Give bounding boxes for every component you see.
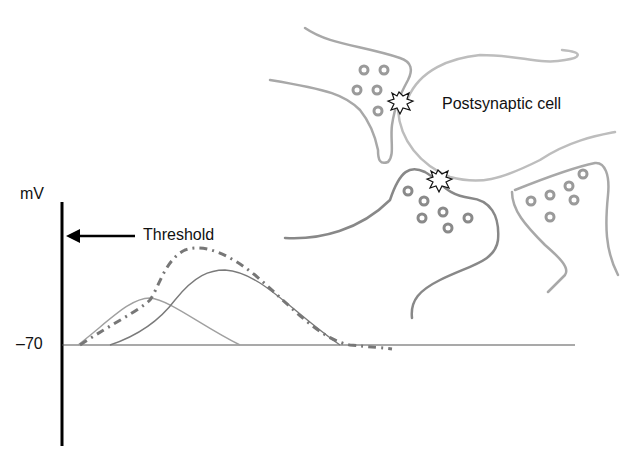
vesicles-right (527, 170, 587, 221)
postsynaptic-cell (408, 50, 578, 98)
presynaptic-terminal-lower (285, 169, 498, 318)
presynaptic-terminal-upper (270, 28, 411, 163)
resting-potential-label: –70 (16, 335, 43, 353)
diagram-canvas (0, 0, 640, 462)
epsp-1-curve (78, 298, 240, 345)
summed-epsp-curve (80, 248, 392, 349)
postsynaptic-cell-label: Postsynaptic cell (442, 95, 561, 113)
y-axis-unit-label: mV (20, 185, 44, 203)
vesicles-lower (404, 187, 472, 232)
presynaptic-terminal-right (515, 163, 618, 275)
epsp-2-curve (110, 270, 340, 345)
threshold-label: Threshold (143, 226, 214, 244)
arrow-left-icon (66, 229, 80, 243)
